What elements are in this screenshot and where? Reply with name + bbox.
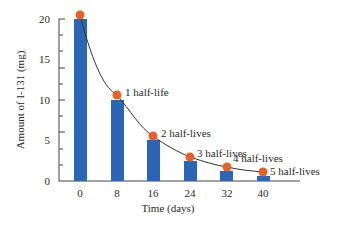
bar-8: [111, 100, 124, 181]
x-tick-label: 40: [258, 187, 270, 199]
x-tick-label: 0: [77, 187, 83, 199]
annotation-5-half-lives: 5 half-lives: [270, 165, 320, 177]
y-tick-label: 0: [45, 175, 51, 187]
bar-32: [220, 171, 233, 181]
bar-16: [147, 140, 160, 181]
y-tick-label: 20: [39, 13, 51, 25]
marker-40: [259, 168, 268, 177]
x-tick-label: 32: [222, 187, 233, 199]
x-tick-label: 16: [148, 187, 160, 199]
y-tick-label: 10: [39, 94, 51, 106]
x-axis-title: Time (days): [141, 202, 194, 215]
annotation-1-half-life: 1 half-life: [125, 86, 169, 98]
marker-24: [186, 153, 195, 162]
marker-32: [223, 163, 232, 172]
bar-40: [257, 176, 270, 181]
marker-16: [149, 132, 158, 141]
marker-8: [113, 91, 122, 100]
y-tick-label: 15: [39, 53, 51, 65]
half-life-chart: 20 15 10 5 0 Amount of I-131 (mg) 1 half…: [0, 0, 343, 228]
y-tick-label: 5: [45, 134, 51, 146]
x-tick-label: 8: [114, 187, 120, 199]
x-tick-label: 24: [185, 187, 197, 199]
annotation-4-half-lives: 4 half-lives: [233, 152, 283, 164]
y-axis-title: Amount of I-131 (mg): [14, 50, 27, 149]
bar-0: [74, 19, 87, 181]
annotation-2-half-lives: 2 half-lives: [161, 127, 211, 139]
marker-0: [76, 11, 85, 20]
bar-24: [184, 161, 197, 181]
y-ticks: [59, 19, 65, 165]
